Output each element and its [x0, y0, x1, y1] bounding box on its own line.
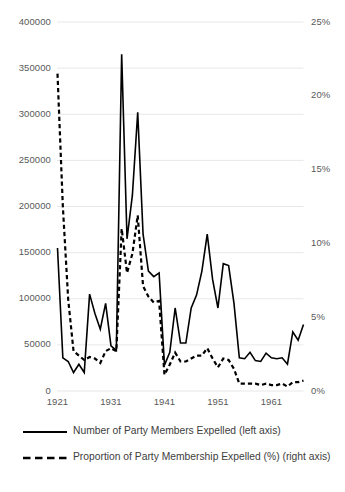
legend-label-proportion-expelled: Proportion of Party Membership Expelled … [73, 450, 331, 464]
y-axis-right-tick-label: 10% [311, 237, 345, 248]
y-axis-right-tick-label: 5% [311, 311, 345, 322]
x-axis-tick-label: 1931 [90, 396, 132, 407]
x-axis-tick-label: 1961 [250, 396, 292, 407]
legend-label-number-expelled: Number of Party Members Expelled (left a… [73, 424, 281, 438]
y-axis-left-tick-label: 200000 [0, 200, 51, 211]
chart-legend: Number of Party Members Expelled (left a… [22, 424, 342, 476]
legend-dashed-line-icon [22, 451, 68, 465]
series-lines [58, 54, 304, 386]
x-axis-tick-label: 1951 [197, 396, 239, 407]
y-axis-left-tick-label: 100000 [0, 292, 51, 303]
y-axis-right-tick-label: 0% [311, 385, 345, 396]
chart-container: 0500001000001500002000002500003000003500… [0, 0, 345, 492]
legend-item-proportion-expelled: Proportion of Party Membership Expelled … [22, 450, 342, 465]
y-axis-left-tick-label: 150000 [0, 246, 51, 257]
series-line-1 [58, 54, 304, 372]
x-axis-tick-label: 1921 [37, 396, 79, 407]
y-axis-right-tick-label: 15% [311, 163, 345, 174]
y-axis-right-tick-label: 25% [311, 16, 345, 27]
y-axis-right-tick-label: 20% [311, 89, 345, 100]
gridlines [57, 22, 304, 391]
chart-plot-area [0, 0, 345, 492]
y-axis-left-tick-label: 300000 [0, 108, 51, 119]
legend-solid-line-icon [22, 425, 68, 439]
y-axis-left-tick-label: 250000 [0, 154, 51, 165]
legend-item-number-expelled: Number of Party Members Expelled (left a… [22, 424, 342, 439]
y-axis-left-tick-label: 400000 [0, 16, 51, 27]
y-axis-left-tick-label: 0 [0, 385, 51, 396]
x-axis-tick-label: 1941 [143, 396, 185, 407]
y-axis-left-tick-label: 350000 [0, 62, 51, 73]
y-axis-left-tick-label: 50000 [0, 338, 51, 349]
